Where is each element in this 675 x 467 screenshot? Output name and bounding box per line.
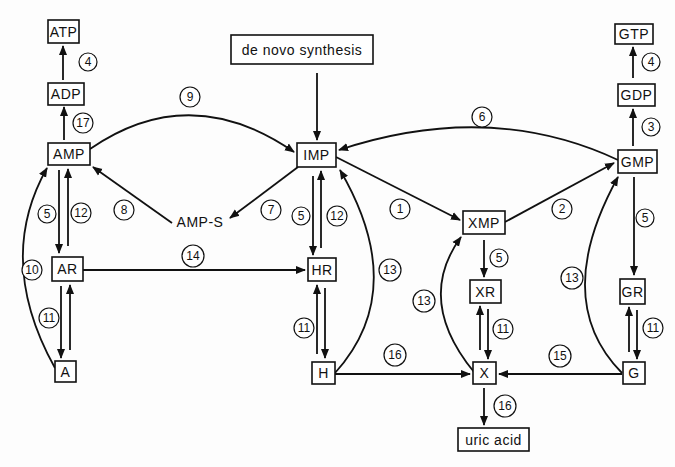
svg-text:11: 11 bbox=[43, 311, 56, 325]
enzyme-badge-16-x: 16 bbox=[494, 395, 516, 417]
enzyme-badge-2: 2 bbox=[552, 199, 572, 219]
node-adp-label: ADP bbox=[51, 86, 81, 102]
node-imp: IMP bbox=[297, 143, 336, 167]
svg-text:8: 8 bbox=[121, 203, 128, 217]
node-atp-label: ATP bbox=[50, 24, 78, 40]
svg-text:11: 11 bbox=[647, 321, 660, 335]
enzyme-badge-3: 3 bbox=[642, 118, 660, 136]
node-h-label: H bbox=[318, 365, 329, 381]
node-x: X bbox=[473, 362, 496, 384]
node-gmp-label: GMP bbox=[621, 154, 654, 170]
node-amp-label: AMP bbox=[53, 146, 85, 162]
node-gr: GR bbox=[620, 279, 645, 304]
node-hr: HR bbox=[308, 258, 336, 281]
node-gtp-label: GTP bbox=[619, 26, 649, 42]
edge-h-imp bbox=[335, 170, 374, 373]
node-x-label: X bbox=[480, 365, 490, 381]
node-gr-label: GR bbox=[622, 284, 644, 300]
node-g: G bbox=[623, 362, 645, 384]
svg-text:1: 1 bbox=[397, 202, 404, 216]
svg-text:15: 15 bbox=[553, 349, 567, 363]
svg-text:12: 12 bbox=[330, 209, 344, 223]
svg-text:14: 14 bbox=[186, 249, 200, 263]
node-a-label: A bbox=[61, 364, 71, 380]
svg-text:10: 10 bbox=[25, 263, 39, 277]
node-de-novo-label: de novo synthesis bbox=[242, 42, 363, 58]
enzyme-badge-7: 7 bbox=[261, 200, 281, 220]
enzyme-badge-8: 8 bbox=[114, 200, 134, 220]
enzyme-badge-11-hr: 11 bbox=[294, 318, 314, 338]
svg-text:7: 7 bbox=[268, 203, 275, 217]
svg-text:11: 11 bbox=[298, 321, 311, 335]
edge-gmp-imp bbox=[339, 127, 618, 160]
enzyme-badge-12-imp: 12 bbox=[327, 206, 347, 226]
enzyme-badge-5-imp: 5 bbox=[292, 207, 310, 225]
svg-text:4: 4 bbox=[648, 55, 655, 69]
purine-pathway-diagram: ATP ADP AMP AR A de novo synthesis IMP A… bbox=[0, 0, 675, 467]
node-a: A bbox=[55, 361, 76, 382]
edge-amp-imp bbox=[90, 115, 294, 152]
node-amp-s-label: AMP-S bbox=[177, 214, 224, 230]
node-gdp: GDP bbox=[618, 84, 655, 106]
svg-text:13: 13 bbox=[383, 263, 397, 277]
enzyme-badge-13-x: 13 bbox=[413, 290, 435, 312]
node-amp-s: AMP-S bbox=[177, 214, 224, 230]
enzyme-badge-13-h: 13 bbox=[379, 259, 401, 281]
node-gdp-label: GDP bbox=[621, 87, 653, 103]
enzyme-badge-12-amp: 12 bbox=[71, 203, 91, 223]
enzyme-badge-6: 6 bbox=[472, 107, 492, 127]
enzyme-badge-1: 1 bbox=[390, 199, 410, 219]
node-uric-acid: uric acid bbox=[458, 428, 529, 451]
node-xmp-label: XMP bbox=[468, 215, 500, 231]
edge-x-xmp bbox=[441, 237, 474, 372]
enzyme-badge-17: 17 bbox=[73, 113, 93, 133]
svg-text:5: 5 bbox=[642, 211, 649, 225]
node-hr-label: HR bbox=[311, 262, 332, 278]
svg-text:13: 13 bbox=[417, 294, 431, 308]
svg-text:5: 5 bbox=[44, 207, 51, 221]
svg-text:3: 3 bbox=[648, 120, 655, 134]
enzyme-badges: 4 17 9 5 12 8 7 10 11 14 5 12 11 13 16 1… bbox=[22, 53, 663, 417]
node-atp: ATP bbox=[48, 20, 79, 43]
enzyme-badge-5-gmp: 5 bbox=[636, 209, 654, 227]
node-ar-label: AR bbox=[57, 261, 77, 277]
enzyme-badge-15: 15 bbox=[549, 345, 571, 367]
node-adp: ADP bbox=[48, 83, 84, 105]
node-xr: XR bbox=[470, 280, 501, 303]
enzyme-badge-5-xmp: 5 bbox=[490, 249, 508, 267]
node-amp: AMP bbox=[48, 143, 90, 165]
svg-text:12: 12 bbox=[74, 206, 88, 220]
node-xmp: XMP bbox=[463, 211, 505, 234]
node-xr-label: XR bbox=[475, 284, 495, 300]
node-h: H bbox=[312, 362, 335, 384]
enzyme-badge-10: 10 bbox=[22, 260, 42, 280]
enzyme-badge-13-g: 13 bbox=[561, 267, 583, 289]
svg-text:5: 5 bbox=[496, 251, 503, 265]
node-de-novo-synthesis: de novo synthesis bbox=[231, 35, 373, 64]
enzyme-badge-11-ar: 11 bbox=[39, 308, 59, 328]
svg-text:6: 6 bbox=[479, 110, 486, 124]
enzyme-badge-9: 9 bbox=[180, 87, 200, 107]
svg-text:17: 17 bbox=[76, 116, 90, 130]
enzyme-badge-4-left: 4 bbox=[79, 53, 97, 71]
enzyme-badge-11-xr: 11 bbox=[493, 319, 513, 339]
enzyme-badge-11-gr: 11 bbox=[643, 318, 663, 338]
node-gtp: GTP bbox=[615, 24, 653, 44]
svg-text:13: 13 bbox=[565, 271, 579, 285]
svg-text:2: 2 bbox=[559, 202, 566, 216]
node-uric-acid-label: uric acid bbox=[465, 432, 522, 448]
node-g-label: G bbox=[628, 365, 639, 381]
enzyme-badge-4-right: 4 bbox=[642, 53, 660, 71]
enzyme-badge-14: 14 bbox=[182, 245, 204, 267]
svg-text:5: 5 bbox=[298, 209, 305, 223]
node-ar: AR bbox=[52, 257, 83, 281]
svg-text:4: 4 bbox=[85, 55, 92, 69]
enzyme-badge-5-amp: 5 bbox=[38, 205, 56, 223]
edge-g-gmp bbox=[585, 177, 622, 373]
svg-text:9: 9 bbox=[187, 90, 194, 104]
svg-text:11: 11 bbox=[497, 322, 510, 336]
node-gmp: GMP bbox=[618, 150, 657, 173]
svg-text:16: 16 bbox=[388, 348, 402, 362]
svg-text:16: 16 bbox=[498, 399, 512, 413]
node-imp-label: IMP bbox=[303, 147, 329, 163]
